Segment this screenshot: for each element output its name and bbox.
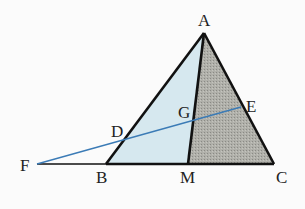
label-d: D (111, 122, 123, 141)
label-g: G (178, 103, 190, 122)
geometry-diagram: A B C M D E G F (0, 0, 305, 209)
label-f: F (20, 156, 29, 175)
label-c: C (276, 168, 287, 187)
label-a: A (198, 11, 211, 30)
label-m: M (180, 168, 195, 187)
label-e: E (246, 97, 256, 116)
label-b: B (96, 168, 107, 187)
